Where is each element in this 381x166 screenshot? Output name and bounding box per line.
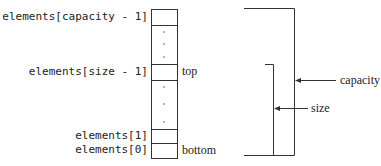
capacity-bracket [244, 9, 295, 156]
capacity-arrowhead-icon [295, 78, 301, 83]
diagram-canvas [0, 0, 381, 166]
ellipsis-dot [163, 121, 164, 122]
size-bracket [265, 65, 274, 156]
label-size: size [311, 101, 330, 116]
ellipsis-dot [163, 86, 164, 87]
size-arrowhead-icon [274, 106, 280, 111]
label-bottom: bottom [182, 143, 216, 158]
ellipsis-dot [163, 103, 164, 104]
label-elements-1: elements[1] [75, 129, 148, 142]
ellipsis-dot [163, 31, 164, 32]
label-capacity: capacity [340, 73, 380, 88]
label-elements-capacity-minus-1: elements[capacity - 1] [2, 10, 148, 23]
ellipsis-dot [163, 56, 164, 57]
label-top: top [182, 64, 197, 79]
label-elements-size-minus-1: elements[size - 1] [29, 65, 148, 78]
ellipsis-dot [163, 43, 164, 44]
label-elements-0: elements[0] [75, 143, 148, 156]
